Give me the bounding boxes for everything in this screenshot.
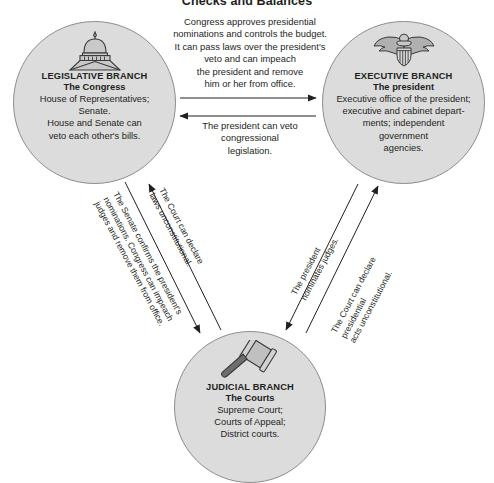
executive-branch-subtitle: The president bbox=[373, 82, 434, 92]
label-judicial-to-executive: The Court can declare presidential acts … bbox=[329, 255, 397, 345]
label-legislative-to-executive: Congress approves presidential nominatio… bbox=[168, 16, 332, 90]
capitol-dome-icon bbox=[67, 31, 123, 71]
judicial-branch-body: Supreme Court; Courts of Appeal; Distric… bbox=[214, 404, 285, 441]
label-executive-to-legislative: The president can veto congressional leg… bbox=[168, 120, 332, 157]
judicial-branch-node[interactable]: JUDICIAL BRANCH The Courts Supreme Court… bbox=[174, 331, 326, 483]
executive-branch-body: Executive office of the president; execu… bbox=[336, 93, 470, 154]
legislative-branch-name: LEGISLATIVE BRANCH bbox=[42, 71, 148, 81]
legislative-branch-node[interactable]: LEGISLATIVE BRANCH The Congress House of… bbox=[13, 21, 176, 184]
eagle-seal-icon bbox=[373, 31, 435, 71]
judicial-branch-name: JUDICIAL BRANCH bbox=[206, 382, 294, 392]
judicial-branch-subtitle: The Courts bbox=[225, 393, 274, 403]
legislative-branch-body: House of Representatives; Senate. House … bbox=[40, 93, 150, 142]
label-executive-to-judicial: The president nominates judges. bbox=[289, 230, 340, 302]
executive-branch-name: EXECUTIVE BRANCH bbox=[355, 71, 453, 81]
diagram-title: Checks and Balances bbox=[0, 0, 494, 8]
executive-branch-node[interactable]: EXECUTIVE BRANCH The president Executive… bbox=[322, 21, 485, 184]
legislative-branch-subtitle: The Congress bbox=[64, 82, 126, 92]
checks-and-balances-diagram: Checks and Balances bbox=[0, 0, 494, 483]
gavel-icon bbox=[217, 340, 283, 382]
